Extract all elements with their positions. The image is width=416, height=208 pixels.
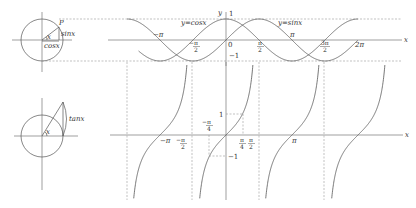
cos-curve-label: y=cosx [180,19,207,27]
tan-brace [63,102,67,136]
tick-one: 1 [229,10,233,18]
sin-cos-graph: y 1 −1 0 y=cosx y=sinx x −π − π 2 π 2 π … [42,9,408,66]
svg-text:π: π [181,136,185,143]
tan-graph: 1 −1 x −π − π 2 − π 4 π 4 π 2 π [110,62,409,200]
tan-tick-one: 1 [219,111,223,119]
tan-tick-quarter-pi: π 4 [239,136,246,150]
svg-text:2: 2 [323,46,327,53]
tan-x-axis-label: x [405,131,409,139]
svg-text:3π: 3π [321,39,329,46]
tan-tick-neg-half-pi: − π 2 [176,136,187,150]
svg-text:4: 4 [207,125,211,132]
svg-text:π: π [240,136,244,143]
svg-text:2: 2 [258,46,262,53]
sincos-x-axis-label: x [404,36,408,44]
tick-neg-pi: −π [153,31,164,39]
tick-half-pi: π 2 [257,39,264,53]
sinx-label: sinx [61,30,75,38]
tan-tick-half-pi: π 2 [248,136,255,150]
svg-text:2: 2 [194,46,198,53]
sin-curve-label: y=sinx [277,19,302,27]
svg-text:2: 2 [181,143,185,150]
tanx-label: tanx [69,115,84,123]
tan-tick-neg-one: −1 [228,153,238,161]
tick-neg-half-pi: − π 2 [189,39,200,53]
unit-circle-tan: x tanx [14,98,84,190]
svg-text:π: π [194,39,198,46]
tan-tick-neg-pi: −π [160,137,171,145]
y-axis-label: y [217,9,223,17]
tick-pi: π [289,31,295,39]
tan-tick-pi: π [291,137,297,145]
svg-text:π: π [258,39,262,46]
trig-function-figure: P x sinx cosx y 1 −1 0 y=cosx y=sinx x −… [0,0,416,208]
svg-text:2: 2 [249,143,253,150]
cosx-label: cosx [44,42,60,50]
origin-label: 0 [228,41,232,49]
point-p-label: P [58,19,64,27]
tan-tick-neg-quarter-pi: − π 4 [202,118,213,132]
tick-three-half-pi: 3π 2 [320,39,330,53]
svg-text:π: π [249,136,253,143]
tick-neg-one: −1 [229,52,239,60]
svg-text:π: π [207,118,211,125]
angle-x-label-1: x [47,33,51,41]
svg-text:4: 4 [240,143,244,150]
tick-two-pi: 2π [354,41,364,49]
angle-x-label-2: x [46,128,50,136]
unit-circle-sin-cos: P x sinx cosx [12,12,75,72]
